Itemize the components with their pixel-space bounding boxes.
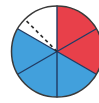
fraction-circle-image xyxy=(0,0,99,103)
pie-chart xyxy=(0,0,99,103)
